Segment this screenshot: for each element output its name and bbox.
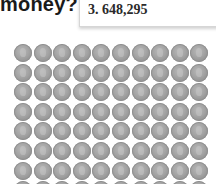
dime-coin-icon xyxy=(73,181,91,184)
dime-coin-icon xyxy=(112,181,130,184)
dime-coin-icon xyxy=(151,44,169,62)
question-heading: money? xyxy=(0,0,78,16)
dime-coin-icon xyxy=(53,64,71,82)
dime-coin-icon xyxy=(53,181,71,184)
coin-grid xyxy=(14,44,208,184)
dime-coin-icon xyxy=(14,44,32,62)
dime-coin-icon xyxy=(190,64,208,82)
dime-coin-icon xyxy=(190,44,208,62)
dime-coin-icon xyxy=(171,181,189,184)
dime-coin-icon xyxy=(132,44,150,62)
dime-coin-icon xyxy=(14,181,32,184)
dime-coin-icon xyxy=(92,181,110,184)
dime-coin-icon xyxy=(171,162,189,180)
dime-coin-icon xyxy=(190,83,208,101)
dime-coin-icon xyxy=(151,181,169,184)
dime-coin-icon xyxy=(132,103,150,121)
dime-coin-icon xyxy=(132,142,150,160)
dime-coin-icon xyxy=(190,181,208,184)
dime-coin-icon xyxy=(132,64,150,82)
dime-coin-icon xyxy=(53,122,71,140)
dime-coin-icon xyxy=(34,162,52,180)
dime-coin-icon xyxy=(92,122,110,140)
dime-coin-icon xyxy=(171,44,189,62)
dime-coin-icon xyxy=(92,162,110,180)
dime-coin-icon xyxy=(151,122,169,140)
dime-coin-icon xyxy=(190,142,208,160)
dime-coin-icon xyxy=(151,103,169,121)
dime-coin-icon xyxy=(112,122,130,140)
dime-coin-icon xyxy=(190,122,208,140)
dime-coin-icon xyxy=(14,103,32,121)
dime-coin-icon xyxy=(171,103,189,121)
dime-coin-icon xyxy=(171,64,189,82)
dime-coin-icon xyxy=(14,142,32,160)
dime-coin-icon xyxy=(112,64,130,82)
dime-coin-icon xyxy=(132,181,150,184)
dime-coin-icon xyxy=(151,83,169,101)
dime-coin-icon xyxy=(132,122,150,140)
dime-coin-icon xyxy=(53,103,71,121)
dime-coin-icon xyxy=(53,142,71,160)
dime-coin-icon xyxy=(112,44,130,62)
dime-coin-icon xyxy=(132,83,150,101)
dime-coin-icon xyxy=(34,122,52,140)
dime-coin-icon xyxy=(34,44,52,62)
dime-coin-icon xyxy=(14,122,32,140)
dime-coin-icon xyxy=(92,64,110,82)
dime-coin-icon xyxy=(73,162,91,180)
dime-coin-icon xyxy=(190,162,208,180)
dime-coin-icon xyxy=(14,162,32,180)
dime-coin-icon xyxy=(92,44,110,62)
dime-coin-icon xyxy=(112,142,130,160)
dime-coin-icon xyxy=(151,162,169,180)
answer-option-3: 3. 648,295 xyxy=(88,2,148,18)
dime-coin-icon xyxy=(92,142,110,160)
dime-coin-icon xyxy=(53,44,71,62)
dime-coin-icon xyxy=(34,83,52,101)
dime-coin-icon xyxy=(92,103,110,121)
dime-coin-icon xyxy=(151,64,169,82)
dime-coin-icon xyxy=(151,142,169,160)
answer-option-box[interactable]: 3. 648,295 xyxy=(79,0,216,27)
dime-coin-icon xyxy=(92,83,110,101)
dime-coin-icon xyxy=(112,103,130,121)
dime-coin-icon xyxy=(171,122,189,140)
dime-coin-icon xyxy=(112,162,130,180)
dime-coin-icon xyxy=(73,142,91,160)
dime-coin-icon xyxy=(73,64,91,82)
dime-coin-icon xyxy=(171,142,189,160)
dime-coin-icon xyxy=(73,103,91,121)
dime-coin-icon xyxy=(14,64,32,82)
dime-coin-icon xyxy=(34,103,52,121)
dime-coin-icon xyxy=(73,44,91,62)
dime-coin-icon xyxy=(171,83,189,101)
dime-coin-icon xyxy=(73,83,91,101)
dime-coin-icon xyxy=(112,83,130,101)
dime-coin-icon xyxy=(53,83,71,101)
dime-coin-icon xyxy=(53,162,71,180)
dime-coin-icon xyxy=(132,162,150,180)
dime-coin-icon xyxy=(190,103,208,121)
dime-coin-icon xyxy=(34,142,52,160)
dime-coin-icon xyxy=(14,83,32,101)
dime-coin-icon xyxy=(34,181,52,184)
dime-coin-icon xyxy=(73,122,91,140)
dime-coin-icon xyxy=(34,64,52,82)
